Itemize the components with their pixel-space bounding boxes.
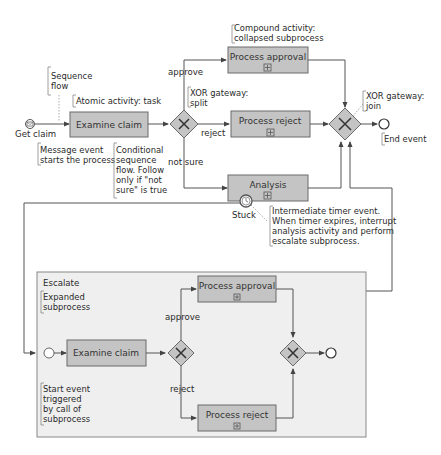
flow-label-approve: approve — [168, 67, 203, 77]
end-event-icon[interactable] — [379, 119, 389, 129]
subprocess-process-approval[interactable]: Process approval — [228, 47, 308, 73]
annotation-timer-event: Intermediate timer event. When timer exp… — [272, 206, 399, 246]
xor-split-gateway[interactable] — [170, 110, 198, 138]
svg-text:Process approval: Process approval — [199, 281, 275, 291]
svg-text:Process reject: Process reject — [206, 410, 269, 420]
subprocess-title: Escalate — [43, 278, 79, 288]
annotation-conditional-flow: Conditional sequence flow. Follow only i… — [116, 145, 167, 195]
annotation-xor-join: XOR gateway: join — [365, 91, 427, 111]
xor-join-gateway[interactable] — [329, 108, 361, 140]
flow-label-reject: reject — [201, 128, 226, 138]
timer-event-label: Stuck — [232, 210, 256, 220]
svg-text:Process approval: Process approval — [230, 52, 306, 62]
subprocess-task-examine-claim[interactable]: Examine claim — [67, 340, 146, 366]
svg-text:Process reject: Process reject — [239, 116, 302, 126]
annotation-sequence-flow: Sequence flow — [51, 71, 95, 91]
flow-label-not-sure: not sure — [168, 157, 203, 167]
svg-text:Examine claim: Examine claim — [76, 120, 142, 130]
annotation-atomic-activity: Atomic activity: task — [76, 96, 161, 106]
subprocess-process-reject[interactable]: Process reject — [231, 111, 310, 137]
subprocess-flow-label-approve: approve — [165, 312, 200, 322]
annotation-end-event: End event — [384, 134, 427, 144]
subprocess-analysis[interactable]: Analysis — [228, 175, 308, 201]
start-event-icon[interactable] — [44, 348, 54, 358]
annotation-compound-activity: Compound activity: collapsed subprocess — [234, 23, 324, 43]
annotation-message-event: Message event starts the process — [40, 145, 115, 165]
svg-text:Examine claim: Examine claim — [73, 348, 139, 358]
annotation-expanded-subprocess: Expanded subprocess — [43, 292, 90, 312]
task-examine-claim[interactable]: Examine claim — [70, 112, 148, 137]
subprocess-end-event-icon[interactable] — [326, 348, 336, 358]
subprocess-task-process-reject[interactable]: Process reject — [198, 405, 276, 431]
annotation-xor-split: XOR gateway: split — [190, 88, 251, 108]
timer-event-icon[interactable] — [240, 195, 252, 207]
message-start-event-icon[interactable] — [26, 120, 35, 129]
subprocess-task-process-approval[interactable]: Process approval — [198, 276, 276, 302]
svg-text:Analysis: Analysis — [249, 180, 286, 190]
bpmn-diagram: Get claim Sequence flow Atomic activity:… — [0, 0, 441, 455]
subprocess-flow-label-reject: reject — [170, 384, 195, 394]
start-event-label: Get claim — [15, 129, 56, 139]
